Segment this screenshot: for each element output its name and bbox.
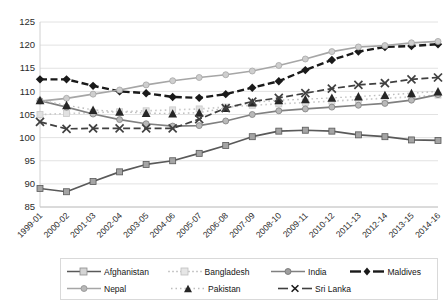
- x-axis-tick-label: 2009-11: [281, 210, 310, 239]
- data-point: [223, 118, 229, 124]
- legend-label-pakistan: Pakistan: [208, 284, 241, 294]
- data-point: [195, 94, 203, 102]
- data-point: [408, 97, 414, 103]
- data-point: [196, 123, 202, 129]
- data-point: [248, 83, 256, 91]
- y-axis-tick-label: 95: [24, 155, 35, 166]
- legend-label-sri-lanka: Sri Lanka: [315, 284, 351, 294]
- legend-item-bangladesh[interactable]: Bangladesh: [168, 266, 261, 277]
- x-axis-tick-label: 2001-03: [68, 210, 98, 240]
- x-axis-tick-label: 2004-06: [148, 210, 178, 240]
- y-axis-tick-label: 120: [19, 39, 35, 50]
- data-point: [301, 66, 309, 74]
- data-point: [223, 72, 229, 78]
- y-axis-tick-label: 125: [19, 16, 35, 27]
- series-line: [40, 91, 438, 113]
- y-axis-tick-label: 90: [24, 178, 35, 189]
- data-point: [196, 75, 202, 81]
- data-point: [90, 91, 96, 97]
- legend-key-afghanistan: [67, 266, 101, 277]
- data-point: [408, 137, 414, 143]
- x-axis-tick-label: 2002-04: [95, 210, 125, 240]
- legend-key-maldives: [350, 266, 384, 277]
- x-axis-tick-label: 2014-16: [413, 210, 443, 240]
- legend-row-1: Afghanistan Bangladesh India: [67, 263, 431, 280]
- data-point: [276, 128, 282, 134]
- legend-item-nepal[interactable]: Nepal: [67, 283, 161, 294]
- line-chart-plot: 8590951001051101151201251999-012000-0220…: [0, 0, 444, 302]
- data-point: [170, 158, 176, 164]
- series-line: [40, 95, 438, 126]
- data-point: [37, 112, 43, 118]
- data-point: [382, 100, 388, 106]
- legend-label-maldives: Maldives: [387, 267, 421, 277]
- data-point: [37, 186, 43, 192]
- data-point: [196, 150, 202, 156]
- legend-label-afghanistan: Afghanistan: [104, 267, 149, 277]
- data-point: [117, 169, 123, 175]
- x-axis-tick-label: 2007-09: [227, 210, 257, 240]
- y-axis-tick-label: 110: [20, 86, 35, 97]
- data-point: [327, 93, 336, 101]
- data-point: [382, 134, 388, 140]
- data-point: [435, 38, 441, 44]
- legend-item-sri-lanka[interactable]: Sri Lanka: [278, 283, 351, 294]
- legend-key-nepal: [67, 283, 101, 294]
- data-point: [117, 87, 123, 93]
- data-point: [249, 134, 255, 140]
- x-axis-tick-label: 2000-02: [42, 210, 72, 240]
- data-point: [381, 91, 390, 99]
- data-point: [328, 56, 336, 64]
- y-axis-tick-label: 100: [19, 132, 35, 143]
- legend-item-afghanistan[interactable]: Afghanistan: [67, 266, 158, 277]
- data-point: [302, 106, 308, 112]
- data-point: [64, 95, 70, 101]
- legend-key-bangladesh: [168, 266, 202, 277]
- legend-key-pakistan: [171, 283, 205, 294]
- x-axis-tick-label: 2003-05: [121, 210, 151, 240]
- data-point: [143, 82, 149, 88]
- data-point: [117, 117, 123, 123]
- data-point: [302, 56, 308, 62]
- data-point: [223, 142, 229, 148]
- data-point: [64, 189, 70, 195]
- x-axis-tick-label: 2006-08: [201, 210, 231, 240]
- legend-row-2: Nepal Pakistan Sri Lanka: [67, 280, 431, 297]
- data-point: [62, 75, 70, 83]
- data-point: [89, 82, 97, 90]
- data-point: [143, 161, 149, 167]
- y-axis-tick-label: 105: [19, 109, 35, 120]
- data-point: [355, 102, 361, 108]
- chart-container: 8590951001051101151201251999-012000-0220…: [0, 0, 444, 302]
- data-point: [302, 127, 308, 133]
- x-axis-tick-label: 2005-07: [174, 210, 204, 240]
- series-line: [40, 44, 438, 98]
- data-point: [36, 75, 44, 83]
- legend-item-pakistan[interactable]: Pakistan: [171, 283, 268, 294]
- y-axis-tick-label: 85: [24, 201, 35, 212]
- data-point: [355, 132, 361, 138]
- data-point: [355, 44, 361, 50]
- data-point: [408, 40, 414, 46]
- chart-legend: Afghanistan Bangladesh India: [60, 258, 438, 300]
- legend-item-maldives[interactable]: Maldives: [350, 266, 421, 277]
- data-point: [249, 112, 255, 118]
- x-axis-tick-label: 2008-10: [254, 210, 284, 240]
- legend-label-india: India: [308, 267, 326, 277]
- legend-label-bangladesh: Bangladesh: [205, 267, 250, 277]
- data-point: [329, 104, 335, 110]
- data-point: [276, 108, 282, 114]
- data-point: [275, 77, 283, 85]
- x-axis-tick-label: 2010-12: [307, 210, 337, 240]
- data-point: [168, 93, 176, 101]
- data-point: [382, 43, 388, 49]
- data-point: [170, 78, 176, 84]
- data-point: [90, 179, 96, 185]
- data-point: [329, 49, 335, 55]
- legend-label-nepal: Nepal: [104, 284, 126, 294]
- x-axis-tick-label: 2012-14: [360, 210, 390, 240]
- x-axis-tick-label: 2013-15: [387, 210, 417, 240]
- legend-item-india[interactable]: India: [271, 266, 340, 277]
- legend-key-india: [271, 266, 305, 277]
- data-point: [62, 101, 71, 109]
